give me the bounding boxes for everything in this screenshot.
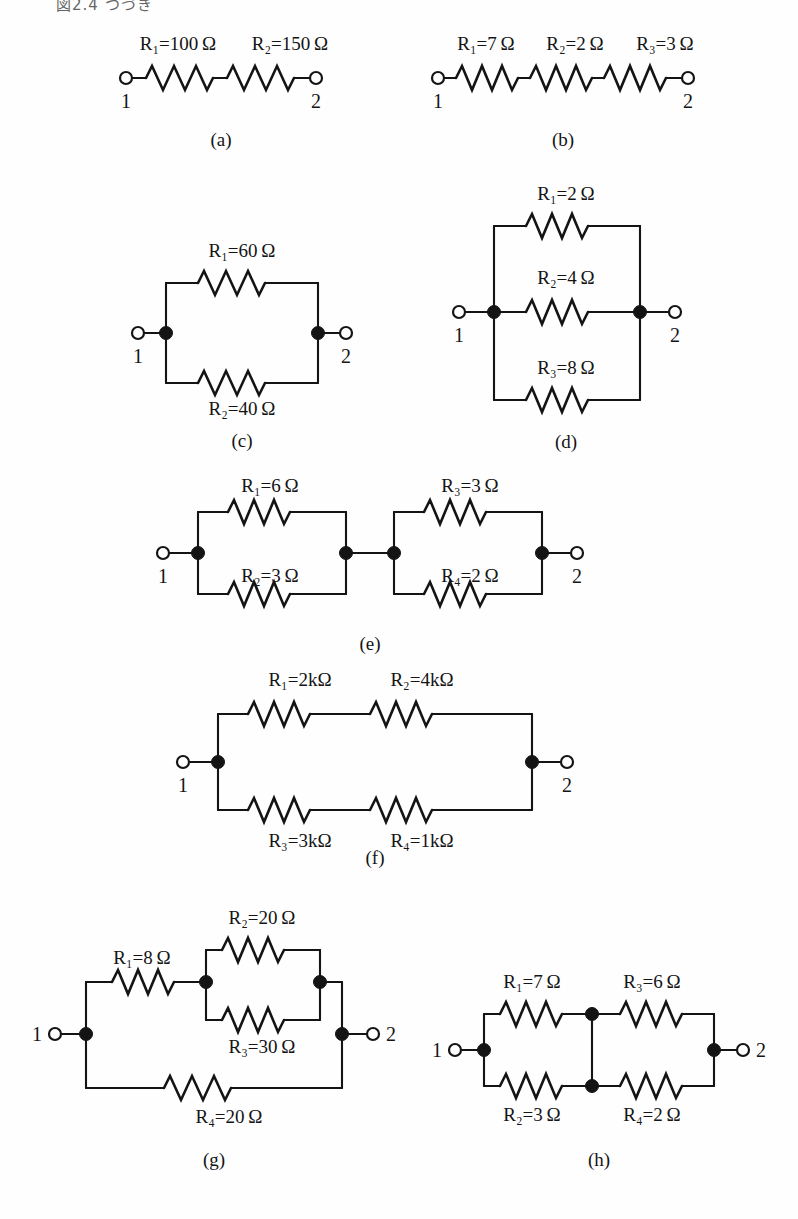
- resistor-symbol-e-r3: [424, 500, 486, 524]
- resistor-label-c-r2: R₂=40 Ω: [209, 398, 276, 419]
- resistor-label-h-r2: R₂=3 Ω: [503, 1104, 560, 1125]
- resistor-symbol-b-r1: [456, 66, 518, 90]
- resistor-symbol-e-r1: [228, 500, 290, 524]
- terminal-number-b-2: 2: [683, 90, 693, 112]
- terminal-b-2: [682, 72, 694, 84]
- resistor-label-b-r2: R₂=2 Ω: [546, 33, 603, 54]
- resistor-symbol-h-r2: [500, 1074, 562, 1098]
- terminal-h-2: [737, 1044, 749, 1056]
- junction-h-bridge-top: [586, 1008, 599, 1021]
- terminal-number-e-2: 2: [572, 565, 582, 587]
- junction-g-right: [336, 1028, 349, 1041]
- circuit-panel-g: R₁=8 Ω R₂=20 Ω R₃=30 Ω R₄=20 Ω: [24, 898, 424, 1198]
- resistor-symbol-a-r2: [227, 66, 294, 90]
- circuit-panel-b: R₁=7 Ω R₂=2 Ω R₃=3 Ω 1 2 (b): [420, 28, 750, 158]
- circuit-svg-h: R₁=7 Ω R₃=6 Ω R₂=3 Ω R₄=2 Ω: [424, 958, 794, 1198]
- resistor-symbol-d-r2: [526, 300, 588, 324]
- resistor-symbol-h-r4: [620, 1074, 682, 1098]
- terminal-number-a-2: 2: [311, 90, 321, 112]
- junction-c-right: [312, 327, 325, 340]
- terminal-number-d-2: 2: [670, 324, 680, 346]
- circuit-svg-b: R₁=7 Ω R₂=2 Ω R₃=3 Ω 1 2 (b): [420, 28, 750, 158]
- circuit-panel-e: R₁=6 Ω R₂=3 Ω R₃=3 Ω R₄=2 Ω: [140, 472, 680, 657]
- junction-g-left: [80, 1028, 93, 1041]
- circuit-panel-c: R₁=60 Ω R₂=40 Ω 1 2 (c): [130, 235, 400, 450]
- circuit-svg-e: R₁=6 Ω R₂=3 Ω R₃=3 Ω R₄=2 Ω: [140, 472, 680, 657]
- resistor-label-e-r2: R₂=3 Ω: [241, 565, 298, 586]
- terminal-number-e-1: 1: [158, 565, 168, 587]
- junction-f-right: [526, 756, 539, 769]
- resistor-label-f-r3: R₃=3kΩ: [268, 830, 331, 851]
- terminal-number-d-1: 1: [454, 324, 464, 346]
- junction-d-right: [634, 306, 647, 319]
- terminal-a-2: [310, 72, 322, 84]
- resistor-label-g-r3: R₃=30 Ω: [229, 1036, 296, 1057]
- resistor-symbol-g-r4: [164, 1076, 231, 1100]
- junction-d-left: [488, 306, 501, 319]
- junction-e-right: [536, 547, 549, 560]
- resistor-symbol-h-r1: [500, 1002, 562, 1026]
- resistor-label-d-r1: R₁=2 Ω: [537, 183, 594, 204]
- resistor-symbol-g-r2: [222, 938, 284, 962]
- terminal-number-g-1: 1: [32, 1023, 42, 1045]
- caption-f: (f): [366, 847, 385, 869]
- junction-f-left: [212, 756, 225, 769]
- caption-g: (g): [203, 1149, 225, 1171]
- terminal-number-h-2: 2: [756, 1039, 766, 1061]
- terminal-number-g-2: 2: [386, 1023, 396, 1045]
- resistor-label-g-r1: R₁=8 Ω: [113, 947, 170, 968]
- terminal-c-1: [132, 327, 144, 339]
- resistor-symbol-c-r2: [198, 371, 265, 395]
- terminal-number-b-1: 1: [433, 90, 443, 112]
- terminal-number-c-2: 2: [341, 345, 351, 367]
- resistor-label-b-r3: R₃=3 Ω: [636, 33, 693, 54]
- terminal-c-2: [340, 327, 352, 339]
- circuit-panel-h: R₁=7 Ω R₃=6 Ω R₂=3 Ω R₄=2 Ω: [424, 958, 794, 1198]
- circuit-panel-f: R₁=2kΩ R₂=4kΩ R₃=3kΩ R₄=1kΩ: [160, 662, 680, 867]
- clipped-header-text: 図2.4 つづき: [56, 0, 153, 14]
- resistor-symbol-f-r3: [248, 798, 310, 822]
- junction-h-right: [708, 1044, 721, 1057]
- resistor-symbol-a-r1: [146, 66, 213, 90]
- resistor-label-e-r3: R₃=3 Ω: [441, 475, 498, 496]
- caption-d: (d): [555, 431, 577, 453]
- terminal-e-1: [157, 547, 169, 559]
- terminal-g-2: [367, 1028, 379, 1040]
- resistor-label-d-r2: R₂=4 Ω: [537, 267, 594, 288]
- terminal-h-1: [449, 1044, 461, 1056]
- resistor-label-h-r1: R₁=7 Ω: [503, 971, 560, 992]
- terminal-number-f-1: 1: [178, 774, 188, 796]
- junction-g-node-a: [200, 976, 213, 989]
- resistor-symbol-g-r1: [112, 970, 174, 994]
- caption-a: (a): [210, 129, 231, 151]
- terminal-f-1: [177, 756, 189, 768]
- junction-h-left: [478, 1044, 491, 1057]
- circuit-svg-f: R₁=2kΩ R₂=4kΩ R₃=3kΩ R₄=1kΩ: [160, 662, 680, 867]
- caption-b: (b): [552, 129, 574, 151]
- circuit-panel-d: R₁=2 Ω R₂=4 Ω R₃=8 Ω 1: [440, 178, 740, 453]
- resistor-label-f-r2: R₂=4kΩ: [390, 669, 453, 690]
- figure-page: 図2.4 つづき R₁=100 Ω R₂=150 Ω 1 2 (a) R₁=7 …: [0, 0, 798, 1219]
- terminal-f-2: [561, 756, 573, 768]
- terminal-number-f-2: 2: [562, 774, 572, 796]
- caption-e: (e): [359, 633, 380, 655]
- terminal-a-1: [120, 72, 132, 84]
- terminal-number-h-1: 1: [432, 1039, 442, 1061]
- resistor-symbol-c-r1: [198, 271, 265, 295]
- resistor-label-a-r1: R₁=100 Ω: [140, 33, 216, 54]
- junction-g-node-b: [314, 976, 327, 989]
- resistor-label-a-r2: R₂=150 Ω: [252, 33, 328, 54]
- resistor-label-d-r3: R₃=8 Ω: [537, 357, 594, 378]
- resistor-symbol-f-r1: [248, 702, 310, 726]
- resistor-label-e-r1: R₁=6 Ω: [241, 475, 298, 496]
- junction-c-left: [160, 327, 173, 340]
- terminal-d-1: [453, 306, 465, 318]
- resistor-symbol-f-r2: [370, 702, 432, 726]
- resistor-symbol-d-r1: [526, 214, 588, 238]
- caption-c: (c): [231, 430, 252, 452]
- resistor-symbol-d-r3: [526, 388, 588, 412]
- resistor-label-h-r3: R₃=6 Ω: [623, 971, 680, 992]
- circuit-svg-a: R₁=100 Ω R₂=150 Ω 1 2 (a): [110, 28, 410, 158]
- junction-e-mid-right: [388, 547, 401, 560]
- resistor-label-f-r4: R₄=1kΩ: [390, 830, 453, 851]
